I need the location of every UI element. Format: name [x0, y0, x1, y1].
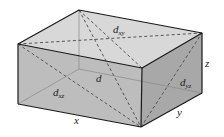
label-d: d [96, 72, 102, 84]
label-x: x [73, 114, 79, 126]
label-y: y [176, 106, 182, 118]
label-z: z [204, 57, 210, 69]
box-diagram: dxy d dxz dyz x y z [0, 0, 224, 137]
